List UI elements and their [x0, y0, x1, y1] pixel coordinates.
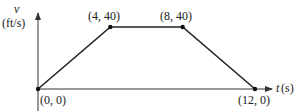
data-point-3 [253, 87, 257, 91]
point-label-1: (4, 40) [88, 9, 120, 23]
velocity-line [38, 27, 255, 89]
point-label-3: (12, 0) [238, 93, 270, 107]
x-axis-var-label: t [276, 81, 280, 95]
point-label-2: (8, 40) [160, 9, 192, 23]
y-axis-unit-label: (ft/s) [2, 16, 25, 30]
data-point-1 [108, 25, 112, 29]
y-axis-var-label: v [14, 2, 20, 16]
velocity-time-chart: v (ft/s) t (s) (0, 0) (4, 40) (8, 40) (1… [0, 0, 307, 111]
x-axis-unit-label: (s) [281, 81, 294, 95]
point-label-0: (0, 0) [40, 93, 66, 107]
data-points [36, 25, 257, 91]
data-point-2 [180, 25, 184, 29]
data-point-0 [36, 87, 40, 91]
